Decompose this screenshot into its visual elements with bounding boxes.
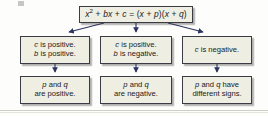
formula-plus-3: + <box>144 9 154 19</box>
conclusion-3-line-2: different signs. <box>192 90 241 99</box>
condition-2-text-2: is negative. <box>118 49 159 58</box>
formula-box: x2 + bx + c = (x + p)(x + q) <box>79 6 193 23</box>
conclusion-1-and: and <box>47 80 64 89</box>
conclusion-2-and: and <box>128 80 145 89</box>
page-divider-rule <box>0 110 268 111</box>
conclusion-1-var-q: q <box>63 80 67 89</box>
condition-box-1: c is positive. b is positive. <box>20 36 90 64</box>
condition-1-text-2: is positive. <box>38 49 76 58</box>
formula-equals: = ( <box>127 9 140 19</box>
conclusion-1-line-2: are positive. <box>35 90 76 99</box>
arrow-root-to-branch-1 <box>69 23 104 32</box>
formula-close: ) <box>184 9 187 19</box>
quadratic-factoring-flowchart: x2 + bx + c = (x + p)(x + q) c is positi… <box>0 0 268 116</box>
conclusion-box-2: p and q are negative. <box>100 76 172 104</box>
condition-3-text-1: is negative. <box>199 45 240 54</box>
condition-box-2: c is positive. b is negative. <box>100 36 172 64</box>
conclusion-3-and: and <box>199 80 216 89</box>
formula-plus-4: + <box>169 9 179 19</box>
formula-plus-2: + <box>112 9 122 19</box>
conclusion-3-have: have <box>220 80 239 89</box>
conclusion-box-3: p and q have different signs. <box>182 76 252 104</box>
conclusion-2-line-2: are negative. <box>114 90 158 99</box>
condition-1-line-2: b is positive. <box>34 50 76 59</box>
formula-expression: x2 + bx + c = (x + p)(x + q) <box>85 9 187 19</box>
condition-3-line-1: c is negative. <box>195 46 239 55</box>
conclusion-box-1: p and q are positive. <box>20 76 90 104</box>
condition-1-text-1: is positive. <box>38 40 76 49</box>
formula-plus-1: + <box>93 9 103 19</box>
conclusion-2-var-q: q <box>144 80 148 89</box>
arrow-root-to-branch-3 <box>168 23 203 32</box>
condition-2-line-2: b is negative. <box>114 50 159 59</box>
condition-2-text-1: is positive. <box>119 40 157 49</box>
page-artifact-mark <box>18 1 24 6</box>
page-divider-rule-secondary <box>0 112 268 113</box>
condition-box-3: c is negative. <box>182 36 252 64</box>
